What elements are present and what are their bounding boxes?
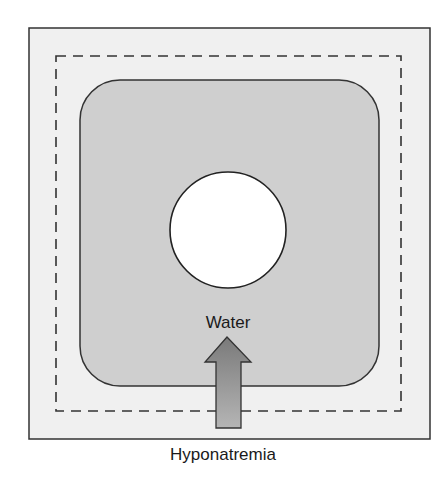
water-label: Water: [178, 313, 278, 333]
caption: Hyponatremia: [110, 445, 336, 465]
diagram-canvas: [0, 0, 446, 482]
nucleus: [170, 172, 286, 288]
